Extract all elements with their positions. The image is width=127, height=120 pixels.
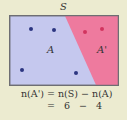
complement-point — [83, 30, 87, 34]
set-a-point — [29, 27, 33, 31]
venn-diagram: A A' — [9, 15, 119, 86]
set-a-label: A — [47, 44, 54, 55]
complement-point — [100, 27, 104, 31]
formula-line-1: n(A') = n(S) − n(A) — [21, 88, 112, 99]
complement-label: A' — [97, 44, 107, 55]
set-a-point — [74, 71, 78, 75]
universal-set-label: S — [0, 1, 127, 12]
set-a-point — [20, 68, 24, 72]
formula-line-2: = 6 − 4 — [47, 100, 102, 111]
set-a-point — [52, 28, 56, 32]
